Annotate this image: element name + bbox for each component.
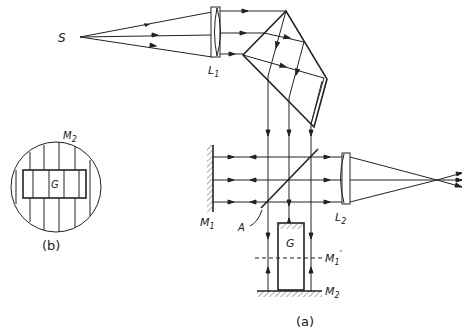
- label-inset-sample: G: [51, 179, 59, 190]
- lens-l1: [211, 7, 221, 57]
- horizontal-rays: [213, 155, 343, 204]
- label-beam-splitter: A: [237, 222, 245, 233]
- source-rays: [80, 12, 212, 57]
- optical-diagram: S L1 L2 M1 A G M1′ M2 (a) M2 G (b): [0, 0, 474, 332]
- prism: [243, 11, 327, 127]
- label-inset-mirror: M2: [63, 130, 77, 144]
- label-lens-l1: L1: [208, 64, 219, 79]
- collimated-rays: [220, 9, 286, 56]
- focused-rays: [350, 157, 462, 202]
- mirror-m2: [257, 291, 322, 297]
- label-lens-l2: L2: [335, 211, 346, 226]
- beam-splitter: [250, 149, 318, 226]
- mirror-m1: [207, 145, 213, 212]
- sample-block: [278, 223, 304, 290]
- caption-b: (b): [42, 238, 60, 253]
- label-sample: G: [286, 237, 295, 250]
- label-mirror-m1: M1: [200, 216, 215, 231]
- label-mirror-m2: M2: [325, 285, 340, 300]
- lens-l2: [341, 153, 351, 204]
- caption-a: (a): [296, 314, 314, 329]
- label-mirror-m1-image: M1′: [325, 248, 343, 267]
- label-source: S: [58, 31, 66, 45]
